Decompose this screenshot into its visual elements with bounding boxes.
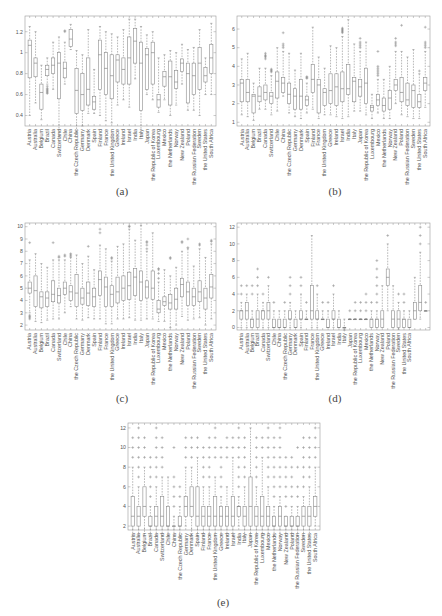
box (302, 436, 305, 536)
y-tick-label: 8 (123, 464, 126, 470)
y-tick-label: 4 (123, 503, 126, 509)
y-tick-label: 6 (123, 484, 126, 490)
x-category-label: South Africa (312, 533, 318, 562)
box (208, 436, 211, 536)
box (225, 436, 228, 536)
box (161, 436, 164, 536)
panel-e: 24681012AustriaAustraliaBelgiumBrazilCan… (0, 0, 442, 616)
box (202, 446, 205, 536)
caption-e: (e) (203, 596, 243, 608)
boxplot-e: 24681012AustriaAustraliaBelgiumBrazilCan… (0, 0, 442, 616)
box (172, 446, 175, 536)
box (261, 436, 264, 536)
y-tick-label: 12 (120, 425, 126, 431)
box (296, 446, 299, 536)
box (308, 436, 311, 536)
box (314, 427, 317, 527)
box (267, 427, 270, 536)
box (237, 427, 240, 527)
box (255, 436, 258, 536)
box (284, 456, 287, 536)
box (166, 477, 169, 536)
box (184, 436, 187, 526)
box (149, 456, 152, 536)
y-tick-label: 10 (120, 444, 126, 450)
box (131, 436, 134, 536)
box (272, 436, 275, 536)
box (219, 446, 222, 536)
box (196, 436, 199, 536)
box (243, 436, 246, 536)
box (278, 427, 281, 536)
box (249, 428, 252, 536)
box (290, 456, 293, 536)
box (143, 436, 146, 536)
box (214, 427, 217, 536)
box (137, 427, 140, 536)
y-tick-label: 2 (123, 523, 126, 529)
box (155, 427, 158, 536)
box (231, 436, 234, 536)
box (190, 436, 193, 536)
